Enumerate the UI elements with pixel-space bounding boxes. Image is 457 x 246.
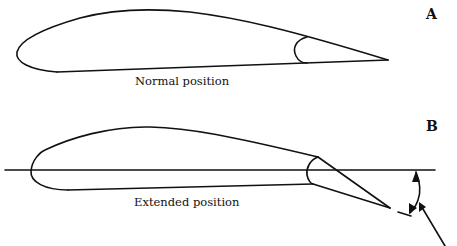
airfoil-extended [5,127,445,246]
flap-diagram: A Normal position B Extended position [0,0,457,246]
pointer-arrowhead [419,202,426,212]
caption-normal-position: Normal position [135,74,229,88]
panel-tag-a: A [426,6,437,22]
panel-tag-b: B [426,118,438,134]
flap-lower [313,184,390,208]
flap-hinge-arc-normal [294,37,307,63]
angle-arrowhead-up [412,171,420,182]
caption-extended-position: Extended position [134,195,239,209]
airfoil-normal [17,10,388,72]
flap-upper [318,157,390,208]
diagram-drawing [0,0,457,246]
pointer-line [420,204,445,246]
